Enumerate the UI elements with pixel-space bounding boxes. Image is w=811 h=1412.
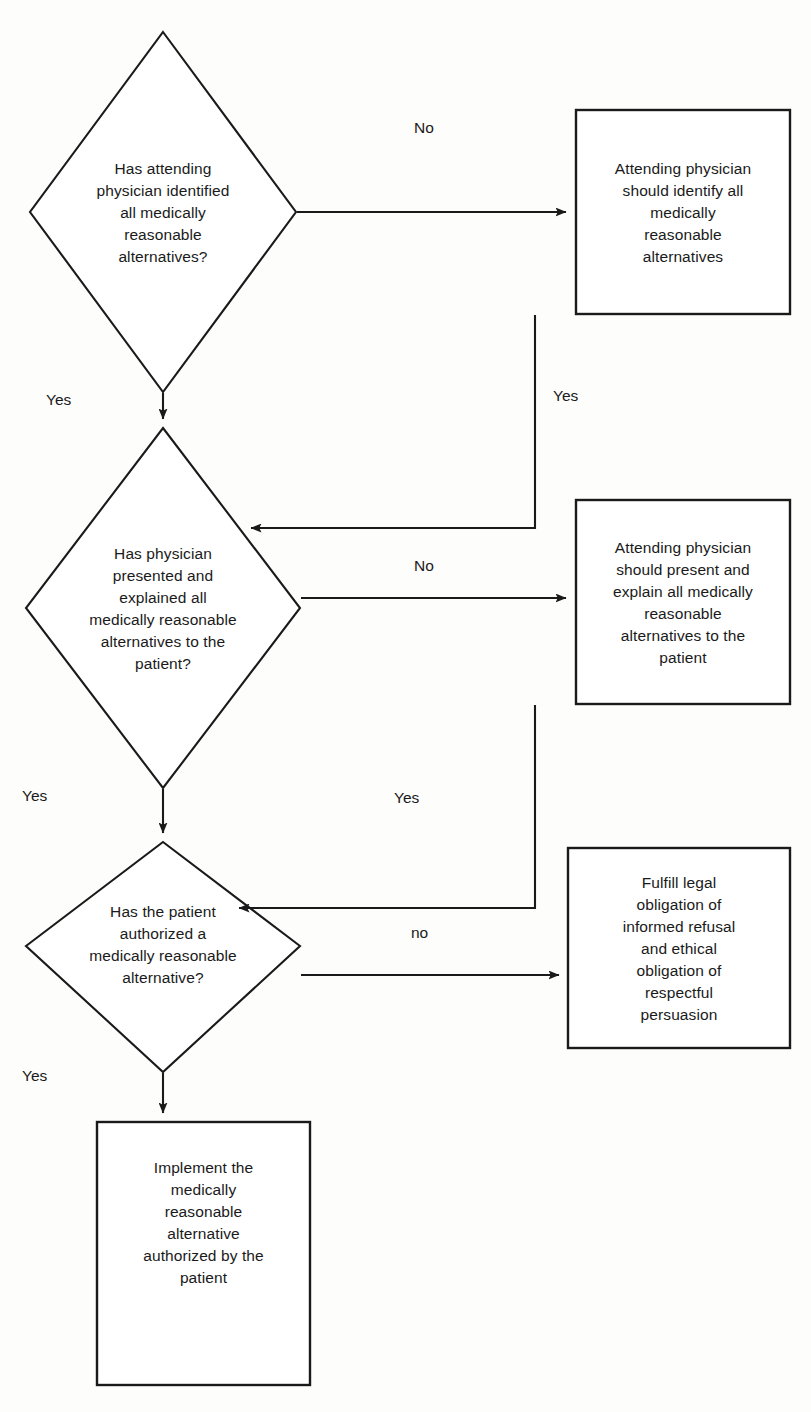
- edge-label-decision3-no: no: [411, 925, 428, 941]
- decision1-shape[interactable]: [30, 32, 296, 392]
- decision3-shape[interactable]: [26, 842, 300, 1072]
- process2-shape[interactable]: [576, 500, 790, 704]
- edge-label-decision1-yes: Yes: [46, 392, 71, 408]
- decision2-shape[interactable]: [26, 428, 300, 788]
- edge-label-decision2-yes: Yes: [22, 788, 47, 804]
- edge-process1-yes: [251, 315, 535, 528]
- process1-shape[interactable]: [576, 110, 790, 314]
- edge-process2-yes: [239, 705, 535, 908]
- edge-label-decision2-no: No: [414, 558, 434, 574]
- flowchart-canvas: process1 --> decision2 --> decision2 (do…: [0, 0, 811, 1412]
- edge-label-process2-yes: Yes: [394, 790, 419, 806]
- process4-shape[interactable]: [97, 1122, 310, 1385]
- process3-shape[interactable]: [568, 848, 790, 1048]
- edge-label-decision1-no: No: [414, 120, 434, 136]
- edge-label-process1-yes: Yes: [553, 388, 578, 404]
- edge-label-decision3-yes: Yes: [22, 1068, 47, 1084]
- flowchart-graphics: process1 --> decision2 --> decision2 (do…: [0, 0, 811, 1412]
